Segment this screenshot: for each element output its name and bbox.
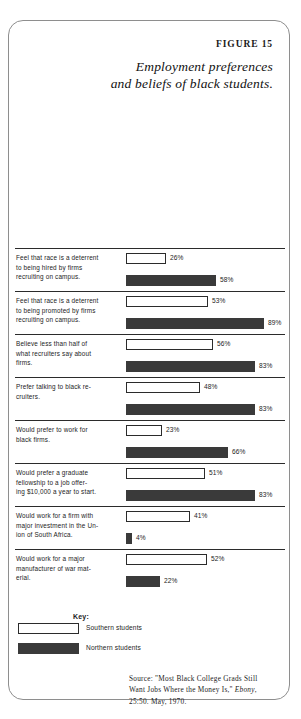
row-label: Feel that race is a deterrentto being pr…	[16, 296, 120, 325]
chart-legend: Key: Southern studentsNorthern students	[15, 613, 275, 660]
bar-north-students	[126, 576, 160, 587]
figure-title-line-2: and beliefs of black students.	[9, 75, 273, 92]
row-label-line: Feel that race is a deterrent	[16, 296, 120, 306]
bar-value-south: 51%	[209, 469, 223, 476]
row-label: Would prefer a graduatefellowship to a j…	[16, 468, 120, 497]
row-bars: 52%22%	[126, 550, 285, 593]
row-label-line: black firms.	[16, 435, 120, 445]
row-label-line: recruiting on campus.	[16, 272, 120, 282]
bar-group-south: 53%	[126, 296, 285, 307]
row-bars: 56%83%	[126, 335, 285, 377]
bar-value-north: 83%	[259, 362, 273, 369]
bar-group-north: 83%	[126, 490, 285, 501]
bar-north-students	[126, 447, 228, 458]
row-label-line: cruiters.	[16, 392, 120, 402]
row-bars: 53%89%	[126, 292, 285, 334]
legend-item: Southern students	[15, 623, 275, 640]
row-bars: 41%4%	[126, 507, 285, 549]
source-line-2: Want Jobs Where the Money Is," Ebony,	[129, 684, 279, 695]
bar-group-south: 41%	[126, 511, 285, 522]
row-label-line: Feel that race is a deterrent	[16, 253, 120, 263]
bar-group-south: 48%	[126, 382, 285, 393]
bar-north-students	[126, 361, 255, 372]
row-label-line: recruiting on campus.	[16, 315, 120, 325]
row-label: Prefer talking to black re-cruiters.	[16, 382, 120, 401]
row-label-line: major investment in the Un-	[16, 521, 120, 531]
bar-group-north: 83%	[126, 361, 285, 372]
bar-south-students	[126, 425, 162, 436]
bar-group-north: 83%	[126, 404, 285, 415]
bar-south-students	[126, 382, 200, 393]
chart-row: Believe less than half ofwhat recruiters…	[15, 335, 285, 378]
row-label-line: firms.	[16, 358, 120, 368]
chart-row: Would prefer a graduatefellowship to a j…	[15, 464, 285, 507]
row-bars: 26%58%	[126, 249, 285, 291]
source-note: Source: "Most Black College Grads Still …	[129, 673, 279, 707]
row-label: Feel that race is a deterrentto being hi…	[16, 253, 120, 282]
bar-group-south: 23%	[126, 425, 285, 436]
figure-title: Employment preferences and beliefs of bl…	[9, 58, 273, 92]
bar-south-students	[126, 511, 190, 522]
row-bars: 23%66%	[126, 421, 285, 463]
bar-south-students	[126, 339, 213, 350]
legend-swatch-north	[18, 643, 79, 654]
legend-items: Southern studentsNorthern students	[15, 623, 275, 660]
bar-value-south: 52%	[211, 555, 225, 562]
bar-value-south: 53%	[212, 297, 226, 304]
bar-value-south: 26%	[170, 254, 184, 261]
row-label: Would work for a majormanufacturer of wa…	[16, 554, 120, 583]
chart-row: Would work for a majormanufacturer of wa…	[15, 550, 285, 593]
bar-value-north: 89%	[268, 319, 282, 326]
figure-header: FIGURE 15 Employment preferences and bel…	[9, 39, 289, 92]
source-line-1: Source: "Most Black College Grads Still	[129, 673, 279, 684]
bar-north-students	[126, 490, 255, 501]
row-label-line: what recruiters say about	[16, 349, 120, 359]
bar-group-south: 52%	[126, 554, 285, 565]
chart-rows-table: Feel that race is a deterrentto being hi…	[15, 248, 285, 593]
bar-north-students	[126, 318, 264, 329]
bar-group-south: 56%	[126, 339, 285, 350]
row-label-line: Believe less than half of	[16, 339, 120, 349]
row-label-line: erial.	[16, 573, 120, 583]
row-label-line: fellowship to a job offer-	[16, 478, 120, 488]
figure-card: FIGURE 15 Employment preferences and bel…	[8, 20, 290, 700]
row-label: Believe less than half ofwhat recruiters…	[16, 339, 120, 368]
row-label-line: Prefer talking to black re-	[16, 382, 120, 392]
source-line-3: 25:50. May, 1970.	[129, 696, 279, 707]
bar-south-students	[126, 468, 205, 479]
source-line-2-text: Want Jobs Where the Money Is,"	[129, 685, 235, 694]
row-label-line: ion of South Africa.	[16, 530, 120, 540]
bar-value-south: 41%	[194, 512, 208, 519]
row-label-line: to being hired by firms	[16, 263, 120, 273]
legend-swatch-south	[18, 623, 79, 634]
bar-value-south: 23%	[166, 426, 180, 433]
bar-value-south: 48%	[204, 383, 218, 390]
row-bars: 48%83%	[126, 378, 285, 420]
chart-row: Feel that race is a deterrentto being pr…	[15, 292, 285, 335]
bar-group-north: 22%	[126, 576, 285, 587]
bar-north-students	[126, 533, 132, 544]
bar-value-north: 4%	[136, 534, 146, 541]
row-label-line: manufacturer of war mat-	[16, 564, 120, 574]
figure-number: FIGURE 15	[9, 39, 273, 49]
row-label-line: Would prefer to work for	[16, 425, 120, 435]
row-label: Would prefer to work forblack firms.	[16, 425, 120, 444]
bar-south-students	[126, 253, 166, 264]
legend-label: Northern students	[86, 644, 141, 651]
bar-group-south: 51%	[126, 468, 285, 479]
bar-group-north: 58%	[126, 275, 285, 286]
source-publication: Ebony	[235, 685, 255, 694]
bar-group-north: 4%	[126, 533, 285, 544]
row-label-line: Would prefer a graduate	[16, 468, 120, 478]
chart-row: Would prefer to work forblack firms.23%6…	[15, 421, 285, 464]
chart-row: Feel that race is a deterrentto being hi…	[15, 249, 285, 292]
chart-row: Prefer talking to black re-cruiters.48%8…	[15, 378, 285, 421]
bar-north-students	[126, 404, 255, 415]
bar-group-north: 66%	[126, 447, 285, 458]
bar-north-students	[126, 275, 216, 286]
row-label-line: Would work for a firm with	[16, 511, 120, 521]
figure-title-line-1: Employment preferences	[9, 58, 273, 75]
bar-value-south: 56%	[217, 340, 231, 347]
bar-value-north: 66%	[232, 448, 246, 455]
legend-title: Key:	[73, 613, 275, 620]
